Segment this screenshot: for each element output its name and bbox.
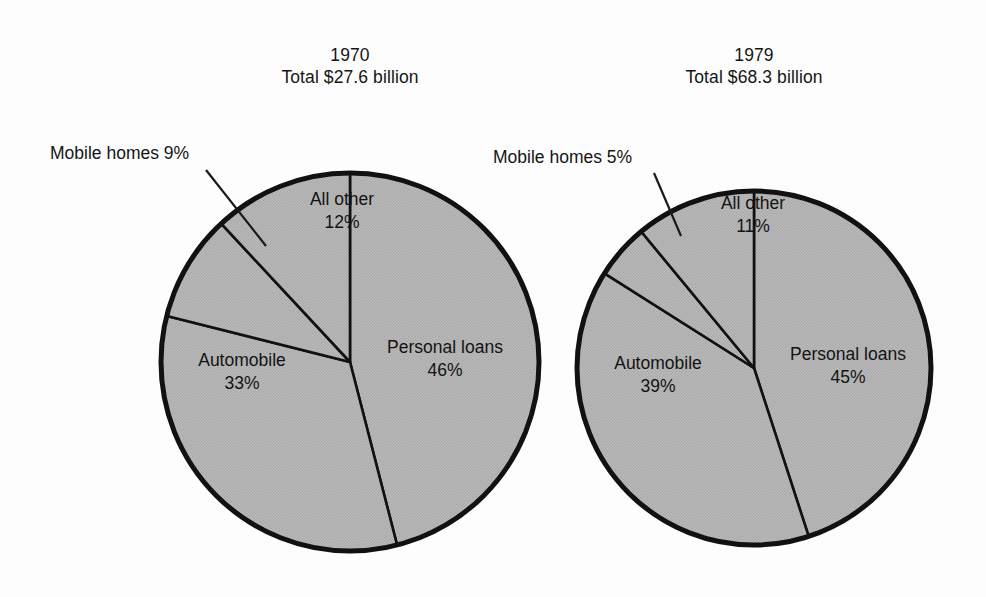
slice-label-personal-loans-1970-name: Personal loans <box>365 336 525 359</box>
callout-label-mobile-homes-1970: Mobile homes 9% <box>50 143 189 163</box>
figure-canvas: 1970 Total $27.6 billion Mobile homes 9%… <box>0 0 986 597</box>
slice-label-personal-loans-1970: Personal loans 46% <box>365 336 525 382</box>
slice-label-personal-loans-1970-pct: 46% <box>365 359 525 382</box>
slice-label-all-other-1979-pct: 11% <box>693 215 813 238</box>
pie-1970-total: Total $27.6 billion <box>250 66 450 88</box>
slice-label-all-other-1970: All other 12% <box>282 188 402 234</box>
pie-1979-year: 1979 <box>654 44 854 66</box>
slice-label-all-other-1970-name: All other <box>282 188 402 211</box>
slice-label-personal-loans-1979: Personal loans 45% <box>768 343 928 389</box>
slice-label-personal-loans-1979-pct: 45% <box>768 366 928 389</box>
slice-label-automobile-1979-name: Automobile <box>588 352 728 375</box>
pie-charts-graphic <box>0 0 986 597</box>
pie-1979-total: Total $68.3 billion <box>654 66 854 88</box>
slice-label-automobile-1979: Automobile 39% <box>588 352 728 398</box>
slice-label-automobile-1970-name: Automobile <box>172 349 312 372</box>
slice-label-personal-loans-1979-name: Personal loans <box>768 343 928 366</box>
pie-1970-year: 1970 <box>250 44 450 66</box>
slice-label-all-other-1979-name: All other <box>693 192 813 215</box>
slice-label-automobile-1970-pct: 33% <box>172 372 312 395</box>
slice-label-all-other-1970-pct: 12% <box>282 211 402 234</box>
slice-label-all-other-1979: All other 11% <box>693 192 813 238</box>
slice-label-automobile-1979-pct: 39% <box>588 375 728 398</box>
pie-1979-title: 1979 Total $68.3 billion <box>654 44 854 88</box>
slice-label-automobile-1970: Automobile 33% <box>172 349 312 395</box>
callout-label-mobile-homes-1979: Mobile homes 5% <box>493 147 632 167</box>
pie-1970-title: 1970 Total $27.6 billion <box>250 44 450 88</box>
